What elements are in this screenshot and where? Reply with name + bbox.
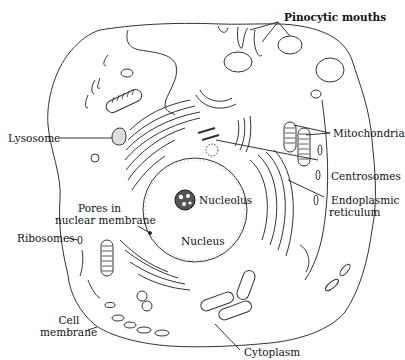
mitochondrion-5 [199, 290, 235, 312]
mitochondrion-6 [217, 299, 253, 321]
label-pores-line1: Pores in [78, 203, 121, 214]
label-pinocytic-mouths: Pinocytic mouths [284, 12, 386, 23]
cell-diagram: Pinocytic mouths Lysosome Mitochondria C… [0, 0, 405, 360]
mitochondrion-2 [284, 122, 296, 152]
label-cell-membrane-line1: Cell [48, 315, 90, 326]
mitochondrion-3 [298, 128, 310, 166]
mitochondrion-1 [104, 88, 144, 115]
label-pores-line2: nuclear membrane [55, 215, 156, 226]
mitochondrion-7 [235, 269, 257, 301]
label-lysosome: Lysosome [8, 133, 60, 144]
nucleolus-shape [175, 190, 195, 210]
label-centrosomes: Centrosomes [331, 171, 401, 182]
label-endoplasmic-reticulum-line2: reticulum [329, 207, 381, 218]
label-nucleolus: Nucleolus [199, 195, 252, 206]
label-cell-membrane-line2: membrane [40, 327, 97, 338]
mitochondrion-4 [101, 240, 113, 276]
label-endoplasmic-reticulum-line1: Endoplasmic [331, 195, 399, 206]
label-mitochondria: Mitochondria [333, 128, 405, 139]
lysosome-shape [112, 128, 126, 145]
label-ribosomes: Ribosomes [17, 233, 75, 244]
label-nucleus: Nucleus [181, 236, 225, 247]
label-cytoplasm: Cytoplasm [244, 347, 300, 358]
cell-membrane-outline [48, 23, 376, 346]
